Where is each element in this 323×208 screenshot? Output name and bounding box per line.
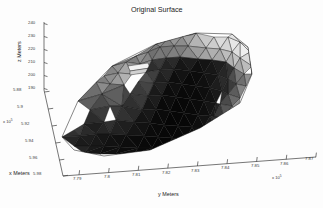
x-tick-label-4: 5.96 — [29, 156, 37, 160]
y-tick-label-4: 7.83 — [191, 169, 199, 173]
y-axis-exponent-base: x 10 — [272, 175, 280, 180]
y-tick-label-5: 7.84 — [221, 166, 229, 170]
x-tick-label-3: 5.94 — [25, 139, 33, 143]
z-tick-label-1: 230 — [28, 34, 35, 38]
x-tick-label-2: 5.92 — [21, 122, 29, 126]
x-axis-exponent-power: 5 — [11, 118, 13, 122]
surface-mesh — [62, 33, 252, 154]
figure-canvas: Original Surface 240 230 220 210 200 190… — [0, 0, 323, 208]
x-axis-label: x Meters — [9, 171, 30, 176]
x-axis-ticks — [45, 91, 69, 176]
x-axis-exponent: x 105 — [3, 119, 13, 124]
y-axis-line — [63, 157, 316, 176]
x-tick-label-1: 5.9 — [17, 105, 23, 109]
x-axis-exponent-base: x 10 — [3, 119, 11, 124]
y-axis-label: y Meters — [158, 192, 179, 197]
y-axis-exponent-power: 5 — [280, 174, 282, 178]
z-axis-label: z Meters — [17, 41, 22, 62]
y-axis-exponent: x 105 — [272, 175, 282, 180]
x-tick-label-0: 5.88 — [13, 88, 21, 92]
y-tick-label-8: 7.87 — [305, 157, 313, 161]
y-tick-label-0: 7.79 — [73, 177, 81, 181]
z-tick-label-2: 220 — [28, 47, 35, 51]
z-tick-label-0: 240 — [28, 21, 35, 25]
x-tick-label-5: 5.98 — [33, 172, 41, 176]
y-tick-label-3: 7.82 — [162, 171, 170, 175]
y-tick-label-2: 7.81 — [132, 173, 140, 177]
x-axis-line — [44, 90, 63, 176]
chart-title: Original Surface — [131, 6, 183, 13]
z-tick-label-3: 210 — [28, 60, 35, 64]
y-tick-label-7: 7.86 — [280, 162, 288, 166]
y-tick-label-6: 7.85 — [251, 164, 259, 168]
z-tick-label-5: 190 — [28, 86, 35, 90]
z-tick-label-4: 200 — [28, 73, 35, 77]
y-tick-label-1: 7.8 — [104, 175, 110, 179]
z-axis-ticks — [44, 24, 48, 90]
